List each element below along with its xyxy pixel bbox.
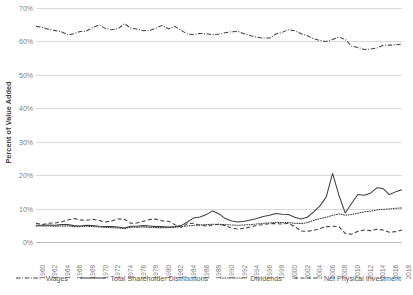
legend-item-label: Dividends <box>250 274 282 283</box>
series-line <box>36 24 402 50</box>
chart-container: Percent of Value Added 0%10%20%30%40%50%… <box>0 0 413 295</box>
legend-item-label: Wages <box>46 274 68 283</box>
y-axis-tick-label: 20% <box>3 172 33 179</box>
plot-area <box>36 8 402 242</box>
legend-item[interactable]: Total Shareholder Distributions <box>80 274 208 283</box>
y-axis-tick-label: 60% <box>3 38 33 45</box>
x-axis-tick-labels: 1960196219641966196819701972197419761978… <box>36 243 402 267</box>
legend-item[interactable]: Dividends <box>220 274 282 283</box>
y-axis-tick-label: 70% <box>3 5 33 12</box>
legend-swatch <box>80 274 106 282</box>
chart-legend: WagesTotal Shareholder DistributionsDivi… <box>16 270 401 286</box>
series-line <box>36 173 402 227</box>
legend-swatch <box>220 274 246 282</box>
y-axis-tick-labels: 0%10%20%30%40%50%60%70% <box>0 8 33 242</box>
y-axis-tick-label: 30% <box>3 138 33 145</box>
legend-swatch <box>16 274 42 282</box>
legend-item[interactable]: Net Physical Investment <box>294 274 401 283</box>
x-axis-tick-label: 2018 <box>405 265 412 279</box>
legend-swatch <box>294 274 320 282</box>
legend-item[interactable]: Wages <box>16 274 68 283</box>
y-axis-tick-label: 10% <box>3 205 33 212</box>
y-axis-tick-label: 40% <box>3 105 33 112</box>
series-lines <box>36 8 402 242</box>
legend-item-label: Total Shareholder Distributions <box>110 274 208 283</box>
legend-separator <box>0 292 413 293</box>
y-axis-tick-label: 50% <box>3 71 33 78</box>
legend-item-label: Net Physical Investment <box>324 274 401 283</box>
y-axis-tick-label: 0% <box>3 239 33 246</box>
